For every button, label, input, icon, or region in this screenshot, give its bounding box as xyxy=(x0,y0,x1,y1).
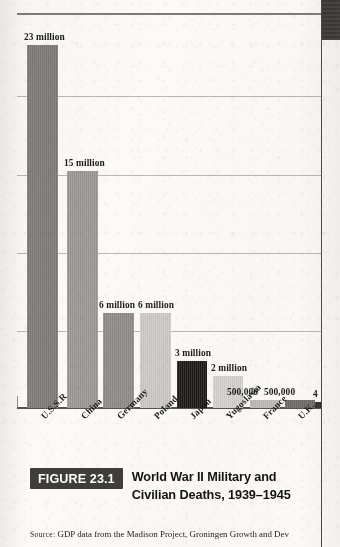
gridline-15m xyxy=(17,175,322,176)
figure-source-line: Source: GDP data from the Madison Projec… xyxy=(30,529,330,539)
value-label-ussr: 23 million xyxy=(24,32,65,42)
gridline-20m xyxy=(17,96,322,97)
bar-germany xyxy=(103,313,134,408)
gridline-10m xyxy=(17,253,322,254)
value-label-china: 15 million xyxy=(64,158,105,168)
page-edge-rule xyxy=(321,0,322,547)
figure-caption: FIGURE 23.1World War II Military and Civ… xyxy=(30,468,322,504)
value-label-cutoff: 4 xyxy=(313,389,318,399)
figure-caption-text: World War II Military and Civilian Death… xyxy=(132,468,310,504)
value-label-yugoslavia: 2 million xyxy=(211,363,247,373)
bar-china xyxy=(67,171,98,408)
gridline-25m xyxy=(17,13,322,15)
bar-chart: 23 million 15 million 6 million 6 millio… xyxy=(0,0,322,420)
page-corner-block xyxy=(322,0,340,40)
bar-ussr xyxy=(27,45,58,408)
source-body: GDP data from the Madison Project, Groni… xyxy=(55,529,289,539)
figure-number-badge: FIGURE 23.1 xyxy=(30,468,123,489)
value-label-japan: 3 million xyxy=(175,348,211,358)
source-label: Source: xyxy=(30,530,55,539)
value-label-poland: 6 million xyxy=(138,300,174,310)
value-label-germany: 6 million xyxy=(99,300,135,310)
